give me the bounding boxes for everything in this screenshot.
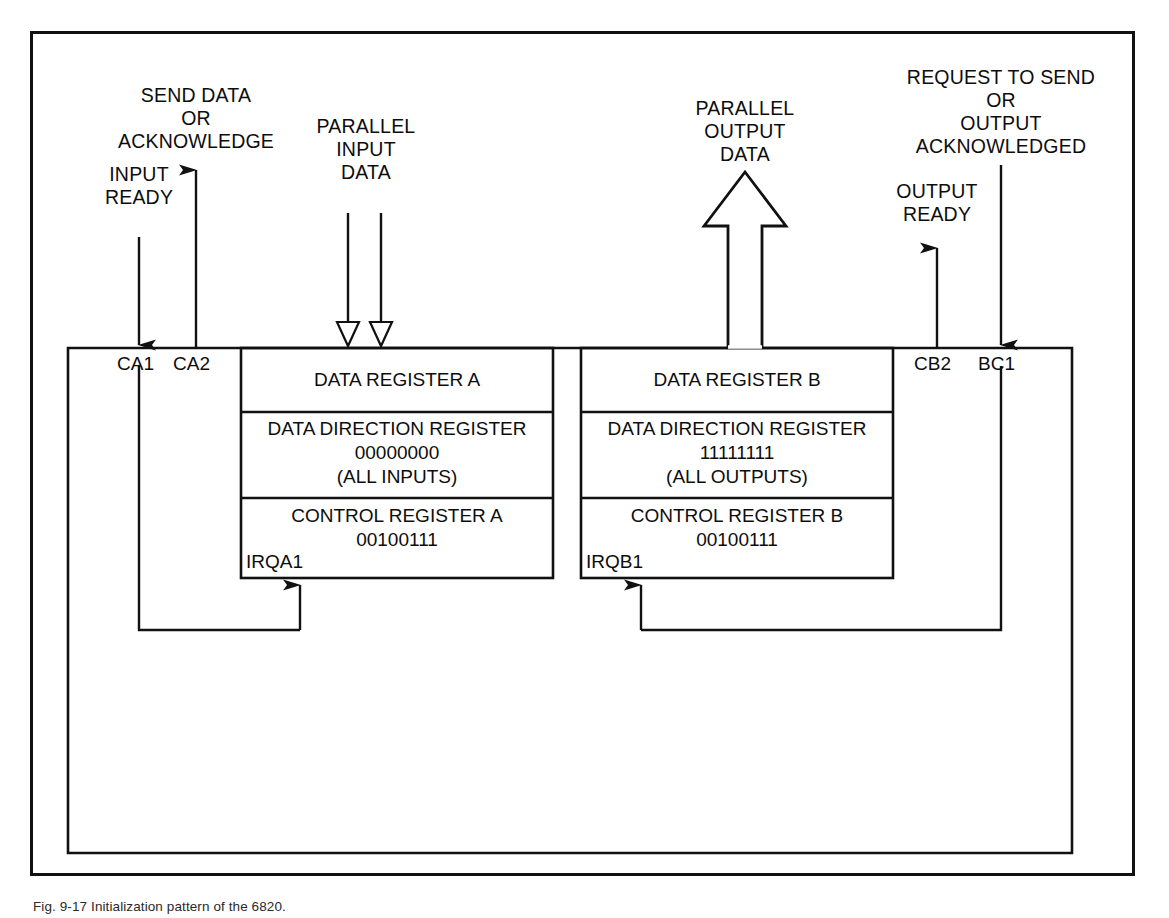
control-register-a-title: CONTROL REGISTER A <box>241 504 553 528</box>
figure-caption: Fig. 9-17 Initialization pattern of the … <box>33 899 286 914</box>
ddr-a-title: DATA DIRECTION REGISTER <box>241 417 553 441</box>
control-register-b-value: 00100111 <box>581 528 893 552</box>
control-register-b-cell: CONTROL REGISTER B 00100111 <box>581 498 893 578</box>
ddr-b-note: (ALL OUTPUTS) <box>581 465 893 489</box>
signal-line-parallel-output-data <box>704 172 786 348</box>
pin-label-bc1: BC1 <box>978 353 1015 374</box>
control-register-b-title: CONTROL REGISTER B <box>581 504 893 528</box>
control-register-a-value: 00100111 <box>241 528 553 552</box>
label-parallel-output-data: PARALLEL OUTPUT DATA <box>665 97 825 166</box>
pin-label-ca1: CA1 <box>117 353 154 374</box>
pin-label-ca2: CA2 <box>173 353 210 374</box>
ddr-a-value: 00000000 <box>241 441 553 465</box>
label-output-ready: OUTPUT READY <box>874 180 1000 226</box>
data-register-b-title: DATA REGISTER B <box>581 368 893 392</box>
ddr-b-title: DATA DIRECTION REGISTER <box>581 417 893 441</box>
label-request-to-send-or-output-acknowledged: REQUEST TO SEND OR OUTPUT ACKNOWLEDGED <box>880 66 1122 158</box>
data-register-a-title: DATA REGISTER A <box>241 368 553 392</box>
label-input-ready: INPUT READY <box>76 163 202 209</box>
ddr-b-value: 11111111 <box>581 441 893 465</box>
label-send-data-or-acknowledge: SEND DATA OR ACKNOWLEDGE <box>96 84 296 153</box>
control-register-a-cell: CONTROL REGISTER A 00100111 <box>241 498 553 578</box>
ddr-a-cell: DATA DIRECTION REGISTER 00000000 (ALL IN… <box>241 412 553 498</box>
ddr-a-note: (ALL INPUTS) <box>241 465 553 489</box>
label-parallel-input-data: PARALLEL INPUT DATA <box>286 115 446 184</box>
pia-chip-outline <box>68 348 1072 853</box>
signal-line-parallel-input-data <box>337 213 392 346</box>
figure-page: SEND DATA OR ACKNOWLEDGE INPUT READY PAR… <box>0 0 1169 918</box>
data-register-b-cell: DATA REGISTER B <box>581 348 893 412</box>
data-register-a-cell: DATA REGISTER A <box>241 348 553 412</box>
pin-label-cb2: CB2 <box>914 353 951 374</box>
ddr-b-cell: DATA DIRECTION REGISTER 11111111 (ALL OU… <box>581 412 893 498</box>
